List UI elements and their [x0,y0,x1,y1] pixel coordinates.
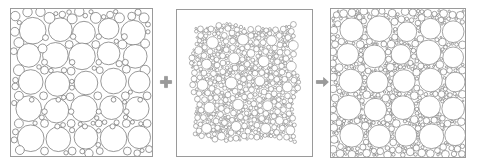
plus-icon [158,73,174,91]
large-packing-canvas [11,9,152,156]
panel-large-circle-packing[interactable] [10,8,153,157]
panel-small-circle-packing[interactable] [176,9,313,157]
small-packing-canvas [177,10,312,156]
right-arrow-icon [314,73,330,91]
circle-packing-figure [0,0,477,168]
panel-combined-packing[interactable] [330,8,466,158]
combined-packing-canvas [331,9,465,157]
